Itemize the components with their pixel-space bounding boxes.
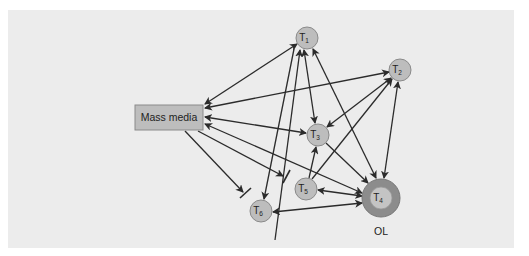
edge-t4-t6: [273, 203, 362, 212]
node-t2: T2: [389, 59, 411, 81]
node-t5: T5: [295, 178, 317, 200]
mass-media-box: Mass media: [135, 105, 203, 130]
block-bar-t6: [240, 188, 251, 198]
edge-t2-t4: [384, 82, 398, 178]
node-t1: T1: [296, 27, 318, 49]
node-t4-opinion-leader: T4: [362, 179, 400, 217]
edge-t5-t3: [309, 147, 316, 178]
network-diagram: Mass media T1 T2 T3 T4 T5 T6 OL: [0, 0, 529, 256]
node-t3: T3: [307, 124, 329, 146]
mass-media-label: Mass media: [141, 111, 198, 123]
edges: [185, 44, 398, 240]
edge-massmedia-t1: [205, 44, 297, 104]
edge-t4-t5: [318, 190, 362, 196]
edge-t1-t6: [264, 49, 294, 199]
opinion-leader-label: OL: [374, 225, 388, 237]
node-t6: T6: [250, 200, 272, 222]
